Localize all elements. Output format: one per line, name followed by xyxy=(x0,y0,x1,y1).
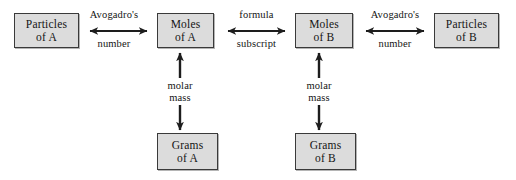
edge-label-molar-mass-a-above: molar xyxy=(150,80,210,92)
node-label-line2: of B xyxy=(314,31,335,44)
node-grams-of-a: Grams of A xyxy=(157,133,218,170)
node-label-line1: Particles xyxy=(26,18,67,31)
node-label-line2: of A xyxy=(36,31,57,44)
node-label-line2: of A xyxy=(175,31,196,44)
node-grams-of-b: Grams of B xyxy=(295,133,356,170)
node-label-line2: of B xyxy=(456,31,477,44)
node-label-line2: of A xyxy=(177,152,198,165)
node-moles-of-a: Moles of A xyxy=(157,13,214,48)
node-label-line2: of B xyxy=(315,152,336,165)
edge-label-formula-subscript-below: subscript xyxy=(221,38,292,50)
node-label-line1: Moles xyxy=(309,18,339,31)
node-label-line1: Moles xyxy=(171,18,201,31)
node-label-line1: Grams xyxy=(310,139,342,152)
edge-label-molar-mass-a-below: mass xyxy=(150,92,210,104)
edge-label-avogadros-number-b-above: Avogadro's xyxy=(360,9,430,21)
node-label-line1: Particles xyxy=(446,18,487,31)
edge-label-avogadros-number-b-below: number xyxy=(360,38,430,50)
mole-conversion-diagram: Moles of A --> Moles of B --> Particles … xyxy=(0,0,516,180)
node-particles-of-a: Particles of A xyxy=(14,13,79,48)
edge-label-molar-mass-b-above: molar xyxy=(289,80,349,92)
edge-label-avogadros-number-a-below: number xyxy=(79,38,149,50)
node-label-line1: Grams xyxy=(172,139,204,152)
edge-label-avogadros-number-a-above: Avogadro's xyxy=(79,9,149,21)
node-moles-of-b: Moles of B xyxy=(295,13,353,48)
node-particles-of-b: Particles of B xyxy=(434,13,499,48)
edge-label-formula-subscript-above: formula xyxy=(221,9,292,21)
edge-label-molar-mass-b-below: mass xyxy=(289,92,349,104)
